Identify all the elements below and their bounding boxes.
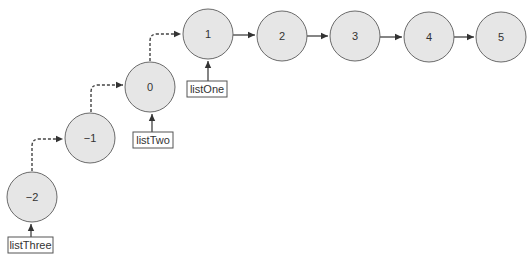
label-listThree: listThree: [8, 237, 53, 253]
svg-text:listOne: listOne: [190, 83, 224, 95]
node-2: 2: [257, 11, 307, 61]
node-5: 5: [476, 12, 526, 62]
node-3: 3: [330, 11, 380, 61]
node-value: 4: [426, 31, 432, 43]
dashed-link-neg2-to-neg1: [32, 139, 63, 171]
node-value: 5: [498, 31, 504, 43]
node-0: 0: [125, 62, 175, 112]
dashed-link-0-to-1: [150, 34, 181, 61]
node-neg2: −2: [7, 172, 57, 222]
node-neg1: −1: [65, 113, 115, 163]
node-value: 3: [352, 30, 358, 42]
node-4: 4: [404, 12, 454, 62]
node-value: −2: [26, 191, 39, 203]
node-1: 1: [183, 9, 233, 59]
linked-list-diagram: −2 −1 0 1 2 3 4 5 listOne listTwo listTh…: [0, 0, 530, 257]
node-value: 0: [147, 81, 153, 93]
dashed-link-neg1-to-0: [91, 85, 123, 112]
svg-text:listTwo: listTwo: [136, 134, 170, 146]
node-value: 2: [279, 30, 285, 42]
node-value: 1: [205, 28, 211, 40]
label-listOne: listOne: [187, 81, 227, 97]
svg-text:listThree: listThree: [9, 239, 51, 251]
node-value: −1: [84, 132, 97, 144]
label-listTwo: listTwo: [133, 132, 173, 148]
